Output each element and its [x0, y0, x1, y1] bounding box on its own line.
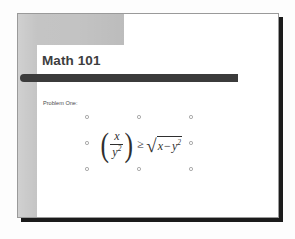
denominator-exponent: 2	[118, 144, 122, 153]
relation-operator-geq: ≥	[137, 137, 144, 152]
fraction-numerator: x	[112, 130, 121, 143]
problem-label[interactable]: Problem One:	[43, 100, 78, 106]
handle-middle-left[interactable]	[85, 141, 88, 144]
title-rule-bar	[20, 74, 238, 82]
radicand-minus-operator: −	[163, 139, 172, 153]
close-paren-glyph: )	[125, 131, 133, 158]
handle-top-right[interactable]	[189, 115, 192, 118]
handle-bottom-right[interactable]	[189, 167, 192, 170]
editor-canvas[interactable]: Math 101 Problem One: ( x y2 ) ≥ √ x−y2	[0, 0, 295, 239]
handle-bottom-center[interactable]	[137, 167, 140, 170]
handle-top-center[interactable]	[137, 115, 140, 118]
equation-object[interactable]: ( x y2 ) ≥ √ x−y2	[87, 117, 194, 172]
radical-sign-icon: √	[146, 136, 156, 155]
radicand-second-exponent: 2	[177, 138, 181, 147]
equation-rendering[interactable]: ( x y2 ) ≥ √ x−y2	[87, 117, 194, 172]
slide-title[interactable]: Math 101	[42, 53, 101, 68]
fraction: x y2	[110, 130, 123, 158]
square-root: √ x−y2	[146, 135, 182, 154]
handle-middle-right[interactable]	[189, 141, 192, 144]
handle-bottom-left[interactable]	[85, 167, 88, 170]
fraction-denominator: y2	[110, 145, 123, 159]
radicand: x−y2	[157, 136, 182, 155]
open-paren-glyph: (	[100, 131, 108, 158]
slide-decoration-side-strip	[18, 14, 37, 217]
slide-surface[interactable]: Math 101 Problem One: ( x y2 ) ≥ √ x−y2	[17, 13, 279, 218]
handle-top-left[interactable]	[85, 115, 88, 118]
